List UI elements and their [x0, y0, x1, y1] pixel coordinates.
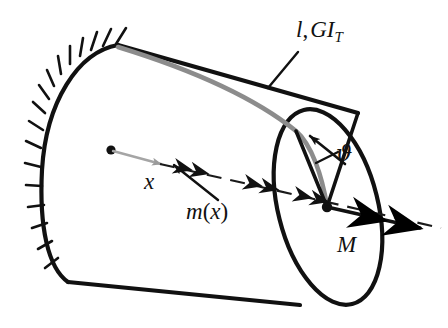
hatch-icon: [26, 141, 41, 148]
label-comma: ,: [302, 17, 308, 42]
hatch-icon: [47, 70, 54, 86]
length-stiffness-leader: [268, 52, 298, 88]
twist-angle-tick: [316, 152, 338, 163]
hatch-icon: [58, 56, 61, 74]
hatch-icon: [33, 102, 45, 113]
leader-line-icon: [268, 52, 298, 88]
hatch-icon: [29, 121, 43, 130]
close-paren: ): [221, 199, 229, 224]
hatch-icon: [116, 28, 126, 44]
hatch-icon: [26, 185, 42, 186]
distributed-torque-argument: x: [210, 199, 220, 224]
hatch-icon: [39, 85, 49, 99]
cylinder-bottom-edge: [68, 282, 300, 305]
torsion-shaft-figure: l,GIT ϑ x m(x) M: [0, 0, 448, 328]
torsional-stiffness-symbol: GI: [310, 17, 334, 42]
axial-coordinate-label: x: [144, 170, 154, 193]
torsion-subscript: T: [335, 29, 343, 45]
hatch-icon: [80, 38, 83, 56]
length-stiffness-label: l,GIT: [296, 18, 343, 45]
cylinder-top-edge: [118, 45, 358, 113]
distributed-torque-label: m(x): [186, 200, 228, 223]
figure-canvas: [0, 0, 448, 328]
hatch-icon: [91, 32, 97, 50]
end-torque-label: M: [337, 233, 356, 256]
hatch-icon: [103, 29, 111, 46]
distributed-torque-symbol: m: [186, 199, 203, 224]
twist-angle-label: ϑ: [336, 142, 352, 165]
hatch-icon: [25, 163, 41, 167]
double-arrowhead-icon: [346, 197, 427, 245]
x-coordinate-arrow: [113, 151, 161, 164]
axis-origin-dot: [106, 145, 115, 154]
